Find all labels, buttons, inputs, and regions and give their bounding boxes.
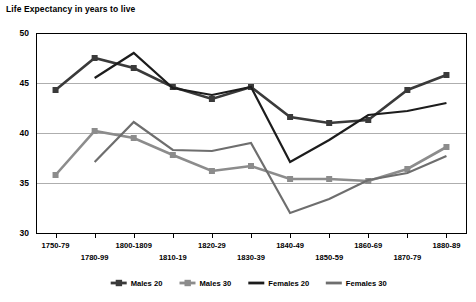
data-point-marker (326, 176, 332, 182)
legend-label: Females 20 (268, 279, 309, 288)
y-axis-tick-label: 50 (20, 28, 30, 38)
line-chart: 30354045501750-791780-991800-18091810-19… (0, 0, 476, 302)
x-axis-tick-label: 1780-99 (81, 253, 109, 262)
data-point-marker (287, 114, 293, 120)
data-point-marker (287, 176, 293, 182)
x-axis-tick-label: 1870-79 (393, 253, 421, 262)
data-point-marker (131, 65, 137, 71)
legend-label: Males 30 (200, 279, 232, 288)
data-point-marker (92, 128, 98, 134)
x-axis-tick-label: 1840-49 (276, 241, 304, 250)
x-axis-tick-label: 1820-29 (198, 241, 226, 250)
data-point-marker (53, 172, 59, 178)
data-point-marker (365, 117, 371, 123)
data-point-marker (209, 96, 215, 102)
series-line-females-20 (95, 53, 447, 162)
data-point-marker (443, 72, 449, 78)
x-axis-tick-label: 1810-19 (159, 253, 187, 262)
data-point-marker (404, 87, 410, 93)
chart-container: Life Expectancy in years to live 3035404… (0, 0, 476, 302)
x-axis-tick-label: 1830-39 (237, 253, 265, 262)
data-point-marker (131, 135, 137, 141)
legend-label: Females 30 (346, 279, 387, 288)
data-point-marker (53, 87, 59, 93)
data-point-marker (326, 120, 332, 126)
legend-swatch-marker (185, 280, 191, 286)
y-axis-tick-label: 35 (20, 178, 30, 188)
data-point-marker (92, 55, 98, 61)
legend-swatch-marker (116, 280, 122, 286)
data-point-marker (248, 163, 254, 169)
x-axis-tick-label: 1880-89 (433, 241, 461, 250)
y-axis-tick-label: 45 (20, 78, 30, 88)
x-axis-tick-label: 1800-1809 (116, 241, 152, 250)
y-axis-tick-label: 40 (20, 128, 30, 138)
series-line-females-30 (95, 122, 447, 213)
legend-item-males-30[interactable]: Males 30 (180, 279, 232, 288)
chart-title: Life Expectancy in years to live (6, 4, 135, 14)
x-axis-tick-label: 1850-59 (315, 253, 343, 262)
data-point-marker (170, 152, 176, 158)
y-axis-tick-label: 30 (20, 228, 30, 238)
x-axis-tick-label: 1750-79 (42, 241, 70, 250)
x-axis-tick-label: 1860-69 (354, 241, 382, 250)
series-line-males-30 (56, 131, 447, 181)
legend-item-males-20[interactable]: Males 20 (111, 279, 163, 288)
legend-item-females-30[interactable]: Females 30 (326, 279, 387, 288)
legend-label: Males 20 (131, 279, 163, 288)
data-point-marker (209, 168, 215, 174)
data-point-marker (443, 144, 449, 150)
legend-item-females-20[interactable]: Females 20 (248, 279, 309, 288)
